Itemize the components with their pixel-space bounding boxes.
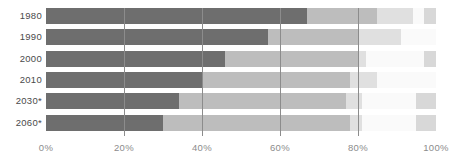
x-axis-label-1: 20% bbox=[114, 140, 134, 156]
x-axis-tick-labels: 0%20%40%60%80%100% bbox=[46, 140, 436, 156]
bar-row bbox=[46, 72, 436, 88]
bar-segment-1 bbox=[46, 72, 202, 88]
bar-segment-5 bbox=[424, 51, 436, 67]
bar-segment-3 bbox=[346, 93, 362, 109]
bars-container bbox=[46, 8, 436, 136]
bar-segment-5 bbox=[416, 93, 436, 109]
x-axis-label-0: 0% bbox=[39, 140, 53, 156]
bar-segment-3 bbox=[377, 8, 412, 24]
bar-row bbox=[46, 8, 436, 24]
y-axis-category-labels: 1980 1990 2000 2010 2030* 2060* bbox=[0, 8, 42, 136]
bar-segment-2 bbox=[202, 72, 350, 88]
x-axis-label-3: 60% bbox=[270, 140, 290, 156]
bar-segment-1 bbox=[46, 93, 179, 109]
x-axis-label-2: 40% bbox=[192, 140, 212, 156]
y-axis-label-5: 2060* bbox=[16, 115, 42, 131]
bar-segment-2 bbox=[268, 29, 358, 45]
bar-segment-4 bbox=[366, 51, 425, 67]
bar-segment-2 bbox=[307, 8, 377, 24]
bar-segment-3 bbox=[350, 115, 362, 131]
y-axis-label-0: 1980 bbox=[20, 8, 42, 24]
bar-row bbox=[46, 29, 436, 45]
bar-segment-4 bbox=[362, 115, 417, 131]
bar-segment-2 bbox=[225, 51, 358, 67]
bar-row bbox=[46, 115, 436, 131]
x-axis-label-4: 80% bbox=[348, 140, 368, 156]
bar-row bbox=[46, 51, 436, 67]
bar-segment-3 bbox=[358, 51, 366, 67]
bar-segment-2 bbox=[179, 93, 347, 109]
y-axis-label-3: 2010 bbox=[20, 72, 42, 88]
bar-segment-1 bbox=[46, 51, 225, 67]
bar-segment-3 bbox=[350, 72, 377, 88]
x-axis-label-5: 100% bbox=[423, 140, 449, 156]
plot-area bbox=[46, 8, 436, 136]
y-axis-label-1: 1990 bbox=[20, 29, 42, 45]
bar-row bbox=[46, 93, 436, 109]
stacked-bar-chart: 1980 1990 2000 2010 2030* 2060* 0%20%40%… bbox=[0, 0, 459, 168]
bar-segment-1 bbox=[46, 29, 268, 45]
y-axis-label-4: 2030* bbox=[16, 93, 42, 109]
bar-segment-1 bbox=[46, 115, 163, 131]
bar-segment-4 bbox=[362, 93, 417, 109]
bar-segment-4 bbox=[401, 29, 436, 45]
bar-segment-5 bbox=[424, 8, 436, 24]
bar-segment-3 bbox=[358, 29, 401, 45]
bar-segment-4 bbox=[413, 8, 425, 24]
bar-segment-5 bbox=[416, 115, 436, 131]
bar-segment-4 bbox=[377, 72, 436, 88]
bar-segment-1 bbox=[46, 8, 307, 24]
bar-segment-2 bbox=[163, 115, 350, 131]
y-axis-label-2: 2000 bbox=[20, 51, 42, 67]
